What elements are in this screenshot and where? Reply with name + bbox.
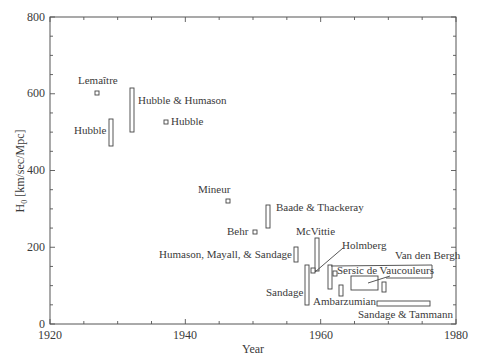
x-tick-label: 1920 xyxy=(38,328,62,342)
x-tick-label: 1940 xyxy=(173,328,197,342)
y-tick-label: 800 xyxy=(27,10,45,24)
x-tick-label: 1960 xyxy=(309,328,333,342)
x-tick-label: 1980 xyxy=(444,328,468,342)
marker-de-vaucouleurs-1970 xyxy=(382,282,386,292)
label-mcvittie: McVittie xyxy=(296,225,335,237)
label-lemaitre: Lemaître xyxy=(78,74,118,86)
y-tick-label: 400 xyxy=(27,163,45,177)
label-baade-thackeray: Baade & Thackeray xyxy=(276,201,364,213)
y-tick-label: 200 xyxy=(27,240,45,254)
hubble-constant-chart: 0 200 400 600 800 1920 1940 1960 1980 Ye… xyxy=(0,0,479,362)
marker-sandage xyxy=(305,265,309,305)
x-tick-labels: 1920 1940 1960 1980 xyxy=(38,328,468,342)
marker-holmberg xyxy=(311,268,315,273)
marker-behr xyxy=(253,230,257,234)
label-humason-mayall-sandage: Humason, Mayall, & Sandage xyxy=(159,248,292,260)
x-axis-label: Year xyxy=(242,342,264,356)
marker-van-den-bergh-box xyxy=(351,276,378,290)
marker-mineur xyxy=(226,199,230,203)
y-tick-labels: 0 200 400 600 800 xyxy=(27,10,45,331)
label-behr: Behr xyxy=(227,225,249,237)
y-tick-label: 600 xyxy=(27,86,45,100)
label-van-den-bergh: Van den Bergh xyxy=(395,249,461,261)
marker-humason-mayall-sandage xyxy=(294,247,298,262)
label-holmberg: Holmberg xyxy=(342,239,387,251)
label-sersic-de-vaucouleurs: Sersic de Vaucouleurs xyxy=(337,264,434,276)
y-axis-label: H0 [km/sec/Mpc] xyxy=(13,130,29,213)
marker-hubble-1929 xyxy=(109,119,113,146)
marker-hubble-1936 xyxy=(164,120,168,124)
label-sandage-tammann: Sandage & Tammann xyxy=(358,308,453,320)
label-sandage: Sandage xyxy=(266,286,303,298)
label-hubble-humason: Hubble & Humason xyxy=(138,94,227,106)
marker-sandage-tammann xyxy=(377,301,430,306)
marker-lemaitre xyxy=(95,91,99,95)
marker-sersic xyxy=(328,265,332,289)
marker-hubble-humason xyxy=(130,88,134,132)
label-ambarzumian: Ambarzumian xyxy=(313,295,376,307)
label-hubble-1936: Hubble xyxy=(171,115,204,127)
marker-mcvittie xyxy=(315,238,319,271)
label-hubble-1929: Hubble xyxy=(74,124,107,136)
label-mineur: Mineur xyxy=(198,183,231,195)
marker-baade-thackeray xyxy=(266,205,270,228)
